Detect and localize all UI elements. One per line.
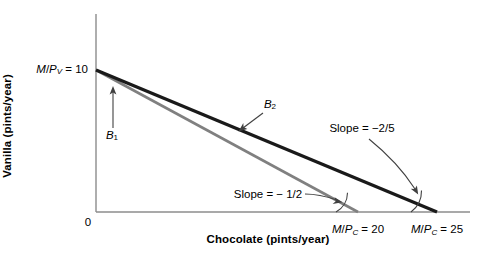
- plot-area: [0, 0, 482, 253]
- leader-slope-b1: [305, 194, 342, 204]
- budget-line-b1: [96, 70, 358, 212]
- origin-tick-label: 0: [85, 217, 91, 229]
- y-intercept-label: M/PV = 10: [36, 64, 92, 77]
- x-intercept-label-b2: M/PC = 25: [411, 224, 463, 237]
- curve-label-b2-sub: 2: [272, 102, 276, 111]
- xint-b2-value: = 25: [437, 223, 463, 235]
- xint-b1-m: M: [332, 223, 342, 235]
- slope-callout-b2: Slope = −2/5: [329, 123, 394, 135]
- x-axis-title: Chocolate (pints/year): [207, 234, 330, 246]
- slope-callout-b1: Slope = − 1/2: [234, 189, 302, 201]
- xint-b1-value: = 20: [358, 223, 384, 235]
- xint-b2-m: M: [411, 223, 421, 235]
- leader-b1: [110, 86, 117, 128]
- y-intercept-m: M: [36, 63, 46, 75]
- chart-figure: Vanilla (pints/year) Chocolate (pints/ye…: [0, 0, 482, 253]
- y-intercept-value: = 10: [62, 63, 88, 75]
- leader-b2: [239, 113, 264, 131]
- curve-label-b1: B1: [106, 130, 118, 143]
- curve-label-b2: B2: [264, 99, 276, 112]
- y-axis-title: Vanilla (pints/year): [2, 74, 14, 178]
- x-intercept-label-b1: M/PC = 20: [332, 224, 384, 237]
- curve-label-b2-base: B: [264, 98, 272, 110]
- curve-label-b1-sub: 1: [114, 133, 118, 142]
- curve-label-b1-base: B: [106, 129, 114, 141]
